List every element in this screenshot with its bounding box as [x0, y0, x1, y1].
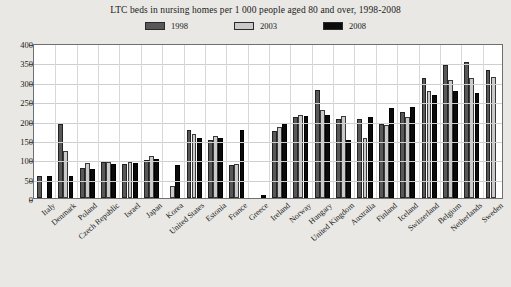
gridline-vertical	[226, 45, 227, 198]
gridline-vertical	[205, 45, 206, 198]
x-axis-label-israel: Israel	[123, 201, 142, 219]
bar-japan-2008	[154, 159, 159, 198]
bar-greece-2008	[261, 195, 266, 198]
bar-estonia-2008	[218, 138, 223, 198]
gridline-vertical	[269, 45, 270, 198]
x-axis-label-sweden: Sweden	[480, 201, 505, 224]
bar-united-kingdom-2003	[341, 116, 346, 198]
bar-australia-1998	[357, 119, 362, 198]
gridline-vertical	[184, 45, 185, 198]
bar-denmark-2003	[63, 151, 68, 198]
gridline-vertical	[290, 45, 291, 198]
gridline-vertical	[419, 45, 420, 198]
bar-japan-2003	[149, 156, 154, 198]
gridline-vertical	[376, 45, 377, 198]
gridline-vertical	[312, 45, 313, 198]
bar-iceland-2003	[405, 117, 410, 198]
bar-united-kingdom-2008	[346, 140, 351, 198]
bar-switzerland-2008	[432, 95, 437, 198]
gridline-horizontal	[34, 84, 502, 85]
bar-norway-1998	[293, 117, 298, 198]
gridline-vertical	[354, 45, 355, 198]
bar-netherlands-2008	[475, 93, 480, 198]
bar-switzerland-2003	[427, 91, 432, 198]
bar-estonia-2003	[213, 136, 218, 198]
legend-swatch-2003	[234, 22, 254, 30]
gridline-vertical	[248, 45, 249, 198]
bar-norway-2003	[298, 115, 303, 198]
gridline-horizontal	[34, 64, 502, 65]
x-axis-label-japan: Japan	[144, 201, 164, 220]
plot-area	[33, 44, 503, 199]
bar-poland-2008	[90, 169, 95, 198]
gridline-vertical	[461, 45, 462, 198]
gridline-vertical	[141, 45, 142, 198]
gridline-vertical	[333, 45, 334, 198]
gridline-vertical	[55, 45, 56, 198]
chart-legend: 1998 2003 2008	[0, 21, 511, 31]
bar-poland-1998	[80, 168, 85, 198]
y-axis: 050100150200250300350400	[0, 44, 33, 200]
bar-united-kingdom-1998	[336, 119, 341, 198]
bar-belgium-2008	[453, 91, 458, 198]
x-axis-label-greece: Greece	[247, 201, 270, 223]
x-axis-label-france: France	[227, 201, 249, 222]
legend-label-1998: 1998	[171, 21, 188, 31]
bar-estonia-1998	[208, 140, 213, 198]
bar-sweden-1998	[486, 70, 491, 198]
bar-france-2008	[240, 130, 245, 198]
plot-frame	[33, 44, 503, 199]
x-axis-label-estonia: Estonia	[203, 201, 227, 224]
bar-australia-2003	[363, 138, 368, 198]
legend-item-1998: 1998	[145, 21, 188, 31]
gridline-horizontal	[34, 103, 502, 104]
bar-iceland-1998	[400, 112, 405, 198]
bar-japan-1998	[144, 160, 149, 198]
gridline-vertical	[162, 45, 163, 198]
bar-italy-1998	[37, 176, 42, 198]
bar-korea-2003	[170, 186, 175, 198]
gridline-horizontal	[34, 161, 502, 162]
bar-denmark-2008	[69, 176, 74, 198]
legend-swatch-1998	[145, 22, 165, 30]
legend-label-2003: 2003	[260, 21, 277, 31]
bar-italy-2008	[47, 176, 52, 198]
x-axis-label-finland: Finland	[374, 201, 398, 224]
gridline-vertical	[397, 45, 398, 198]
gridline-vertical	[98, 45, 99, 198]
gridline-vertical	[77, 45, 78, 198]
bars-layer	[34, 45, 502, 198]
gridline-vertical	[119, 45, 120, 198]
bar-australia-2008	[368, 117, 373, 198]
bar-iceland-2008	[410, 107, 415, 198]
bar-norway-2008	[304, 116, 309, 198]
chart-title: LTC beds in nursing homes per 1 000 peop…	[0, 5, 511, 15]
bar-hungary-2008	[325, 115, 330, 198]
legend-label-2008: 2008	[349, 21, 366, 31]
bar-united-states-2003	[192, 134, 197, 198]
chart-container: LTC beds in nursing homes per 1 000 peop…	[0, 0, 511, 287]
bar-belgium-1998	[443, 65, 448, 198]
bar-hungary-1998	[315, 90, 320, 199]
legend-item-2003: 2003	[234, 21, 277, 31]
gridline-vertical	[440, 45, 441, 198]
bar-ireland-2003	[277, 127, 282, 198]
bar-united-states-2008	[197, 138, 202, 198]
bar-netherlands-1998	[464, 62, 469, 198]
legend-swatch-2008	[323, 22, 343, 30]
legend-item-2008: 2008	[323, 21, 366, 31]
gridline-horizontal	[34, 142, 502, 143]
gridline-horizontal	[34, 181, 502, 182]
gridline-horizontal	[34, 123, 502, 124]
bar-united-states-1998	[187, 130, 192, 198]
gridline-vertical	[483, 45, 484, 198]
x-axis-labels: ItalyDenmarkPolandCzech RepublicIsraelJa…	[33, 201, 503, 287]
